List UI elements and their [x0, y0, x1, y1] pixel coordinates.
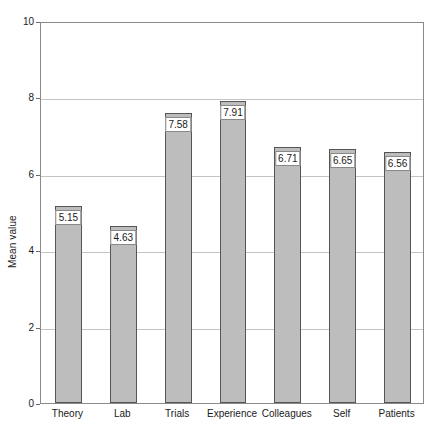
- bar: 6.56: [384, 152, 411, 403]
- x-axis-tick-label: Theory: [52, 408, 83, 419]
- bar: 5.15: [55, 206, 82, 403]
- x-axis-tick-label: Lab: [114, 408, 131, 419]
- bar-value-label: 5.15: [56, 210, 81, 225]
- bar-value-label: 7.91: [220, 105, 245, 120]
- y-axis-tick-label: 0: [4, 399, 34, 409]
- y-axis-tick-label: 2: [4, 323, 34, 333]
- bar: 4.63: [110, 226, 137, 403]
- x-axis-tick-label: Colleagues: [262, 408, 312, 419]
- bar: 6.71: [274, 147, 301, 403]
- plot-inner: 5.154.637.587.916.716.656.56: [41, 23, 423, 403]
- bar-value-label: 6.56: [385, 156, 410, 171]
- cropped-title-sliver: • • • •: [0, 0, 440, 7]
- bar-value-label: 4.63: [111, 230, 136, 245]
- x-axis-tick-label: Patients: [378, 408, 414, 419]
- y-axis-tick-label: 4: [4, 246, 34, 256]
- x-axis-tick-label: Trials: [165, 408, 189, 419]
- bar: 7.91: [220, 101, 247, 403]
- bar-chart: • • • • Mean value 0246810 5.154.637.587…: [0, 0, 440, 429]
- plot-area: 5.154.637.587.916.716.656.56: [40, 22, 424, 404]
- bar-value-label: 6.65: [330, 153, 355, 168]
- x-axis-tick-label: Self: [333, 408, 350, 419]
- x-axis-tick-label: Experience: [207, 408, 257, 419]
- chart-title: • • • •: [0, 0, 440, 2]
- bar: 7.58: [165, 113, 192, 403]
- y-axis-tick-label: 10: [4, 17, 34, 27]
- y-axis-tick-mark: [36, 404, 40, 405]
- y-axis-tick-label: 8: [4, 93, 34, 103]
- y-axis-tick-label: 6: [4, 170, 34, 180]
- bar-value-label: 6.71: [275, 151, 300, 166]
- bar: 6.65: [329, 149, 356, 403]
- bar-value-label: 7.58: [165, 117, 190, 132]
